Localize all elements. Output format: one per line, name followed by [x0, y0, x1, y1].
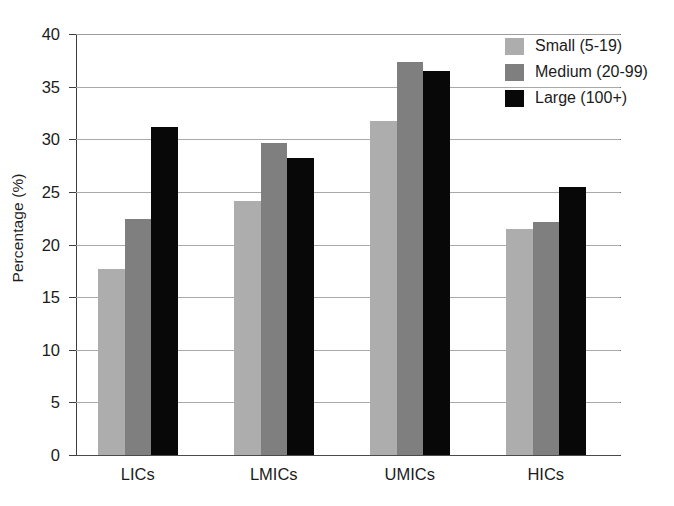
legend-row-small[interactable]: Small (5-19)	[505, 33, 671, 59]
bar-hics-large	[559, 187, 586, 455]
x-axis-tick-label-umics: UMICs	[385, 466, 435, 483]
bar-hics-small	[506, 229, 533, 455]
y-axis-tick-label: 20	[14, 236, 60, 253]
bar-lics-medium	[125, 219, 152, 455]
legend-row-large[interactable]: Large (100+)	[505, 85, 671, 111]
bar-lics-large	[151, 127, 178, 455]
x-axis-tick-label-hics: HICs	[527, 466, 564, 483]
bar-lmics-small	[234, 201, 261, 455]
x-axis-tick-label-lmics: LMICs	[250, 466, 298, 483]
gridline-0	[76, 455, 620, 456]
y-axis-tick-label: 25	[14, 184, 60, 201]
legend-swatch-medium	[505, 64, 524, 81]
bar-lics-small	[98, 269, 125, 455]
bar-chart-figure: Percentage (%) 0510152025303540 Small (5…	[0, 0, 674, 506]
y-axis-tick-label: 15	[14, 289, 60, 306]
chart-legend: Small (5-19)Medium (20-99)Large (100+)	[505, 33, 671, 111]
y-axis-tick-label: 40	[14, 26, 60, 43]
legend-row-medium[interactable]: Medium (20-99)	[505, 59, 671, 85]
bar-umics-large	[423, 71, 450, 455]
legend-label-small: Small (5-19)	[535, 38, 622, 54]
y-axis-tick-label: 5	[14, 394, 60, 411]
bar-lmics-medium	[261, 143, 288, 455]
y-axis-tick-label: 0	[14, 447, 60, 464]
legend-label-medium: Medium (20-99)	[535, 64, 648, 80]
legend-swatch-large	[505, 90, 524, 107]
bar-hics-medium	[533, 222, 560, 455]
bar-umics-small	[370, 121, 397, 455]
legend-label-large: Large (100+)	[535, 90, 627, 106]
bar-umics-medium	[397, 62, 424, 455]
y-axis-tick-label: 10	[14, 342, 60, 359]
x-axis-tick-label-lics: LICs	[121, 466, 155, 483]
legend-swatch-small	[505, 38, 524, 55]
y-axis-tick-label: 30	[14, 131, 60, 148]
bar-lmics-large	[287, 158, 314, 455]
y-axis-tick-label: 35	[14, 78, 60, 95]
